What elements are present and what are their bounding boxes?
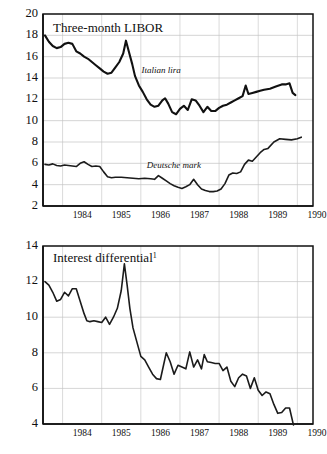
y-axis-tick-label: 12: [26, 91, 39, 105]
x-axis-tick-label: 1986: [151, 210, 170, 220]
chart-title: Three-month LIBOR: [53, 20, 163, 35]
x-axis-tick-label: 1986: [151, 428, 170, 438]
x-axis-tick-label: 1989: [268, 210, 287, 220]
x-axis-tick-label: 1988: [229, 428, 248, 438]
chart-panel-libor: 2468101214161820198419851986198719881989…: [0, 0, 327, 238]
libor-chart-svg: 2468101214161820198419851986198719881989…: [0, 0, 327, 238]
y-axis-tick-label: 2: [32, 198, 38, 212]
y-axis-tick-label: 6: [32, 380, 38, 394]
y-axis-tick-label: 6: [32, 155, 38, 169]
y-axis-tick-label: 8: [32, 134, 38, 148]
y-axis-tick-label: 10: [26, 113, 39, 127]
x-axis-tick-label: 1985: [112, 428, 131, 438]
x-axis-tick-label: 1990: [307, 428, 326, 438]
x-axis-tick-label: 1984: [73, 210, 92, 220]
y-axis-tick-label: 4: [32, 416, 39, 430]
x-axis-tick-label: 1988: [229, 210, 248, 220]
chart-panel-differential: 4681012141984198519861987198819891990Int…: [0, 238, 327, 454]
series-label-deutsche-mark: Deutsche mark: [146, 160, 202, 170]
y-axis-tick-label: 12: [26, 273, 39, 287]
x-axis-tick-label: 1987: [190, 428, 209, 438]
y-axis-tick-label: 16: [26, 49, 39, 63]
y-axis-tick-label: 20: [26, 6, 39, 20]
plot-frame: [43, 246, 313, 424]
y-axis-tick-label: 14: [26, 70, 39, 84]
x-axis-tick-label: 1984: [73, 428, 92, 438]
y-axis-tick-label: 4: [32, 177, 39, 191]
chart-title-superscript: 1: [153, 251, 157, 260]
differential-chart-svg: 4681012141984198519861987198819891990Int…: [0, 238, 327, 454]
series-line-interest-differential: [45, 264, 293, 425]
x-axis-tick-label: 1990: [307, 210, 326, 220]
chart-title: Interest differential1: [53, 250, 157, 265]
y-axis-tick-label: 14: [26, 238, 39, 252]
y-axis-tick-label: 8: [32, 345, 38, 359]
y-axis-tick-label: 18: [26, 27, 39, 41]
y-axis-tick-label: 10: [26, 309, 39, 323]
x-axis-tick-label: 1989: [268, 428, 287, 438]
figure-container: 2468101214161820198419851986198719881989…: [0, 0, 327, 454]
x-axis-tick-label: 1985: [112, 210, 131, 220]
x-axis-tick-label: 1987: [190, 210, 209, 220]
series-label-italian-lira: Italian lira: [141, 65, 182, 75]
